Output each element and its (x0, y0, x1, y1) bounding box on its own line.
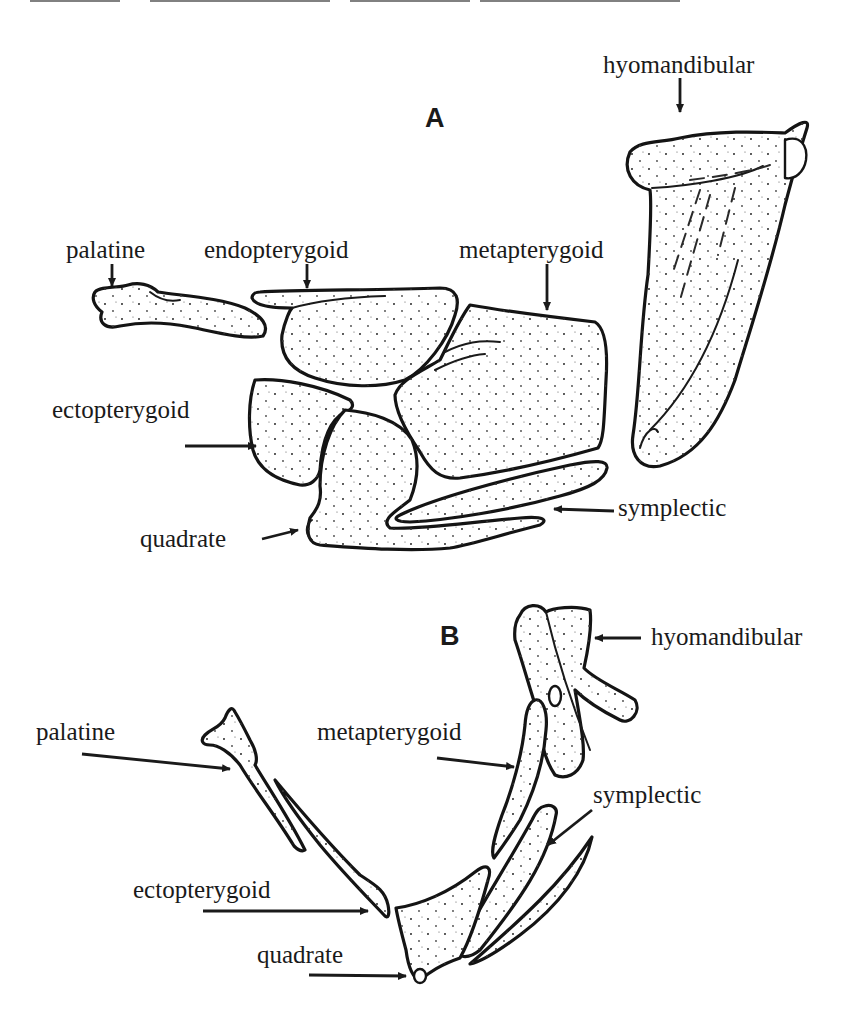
panel-a: A (52, 51, 808, 552)
label-endopterygoid-a: endopterygoid (204, 236, 349, 263)
panel-a-letter: A (425, 103, 445, 133)
panel-b: B (36, 606, 803, 983)
bone-hyomandibular-a (627, 122, 807, 466)
label-symplectic-b: symplectic (593, 781, 701, 808)
label-ectopterygoid-a: ectopterygoid (52, 396, 190, 423)
label-ectopterygoid-b: ectopterygoid (133, 876, 271, 903)
label-palatine-b: palatine (36, 718, 115, 745)
label-metapterygoid-b: metapterygoid (317, 718, 462, 745)
anatomy-figure: A (0, 0, 865, 1032)
arrow-palatine-b (82, 754, 230, 769)
label-quadrate-a: quadrate (140, 525, 226, 552)
bone-ectopterygoid-b (275, 780, 389, 917)
label-hyomandibular-a: hyomandibular (603, 51, 755, 78)
arrow-symplectic-a (554, 509, 614, 511)
label-metapterygoid-a: metapterygoid (459, 236, 604, 263)
arrow-metapterygoid-b (437, 758, 514, 767)
cropped-header-text (30, 0, 680, 2)
label-hyomandibular-b: hyomandibular (651, 623, 803, 650)
label-symplectic-a: symplectic (618, 494, 726, 521)
arrow-quadrate-b (309, 975, 406, 976)
panel-b-letter: B (440, 621, 460, 651)
label-palatine-a: palatine (66, 236, 145, 263)
bone-palatine-b (202, 709, 305, 851)
bone-quadrate-b (396, 867, 489, 983)
label-quadrate-b: quadrate (257, 941, 343, 968)
bone-palatine-a (93, 284, 265, 337)
arrow-quadrate-a (262, 530, 298, 539)
